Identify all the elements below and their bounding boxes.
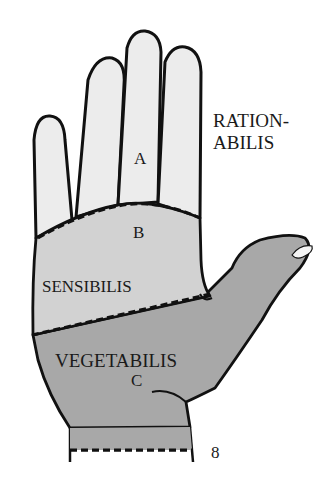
index-finger	[158, 47, 201, 218]
middle-finger	[118, 31, 161, 205]
wrist-fill	[70, 427, 192, 450]
zone-letter-b: B	[133, 223, 144, 242]
hand-diagram: RATION- ABILIS A B SENSIBILIS VEGETABILI…	[0, 0, 336, 483]
ring-finger	[76, 58, 124, 217]
sensibilis-label: SENSIBILIS	[42, 277, 132, 296]
rationabilis-label-line1: RATION-	[213, 110, 289, 131]
vegetabilis-label: VEGETABILIS	[55, 350, 177, 371]
page-number: 8	[211, 443, 220, 462]
zone-letter-c: C	[131, 371, 142, 390]
little-finger	[34, 116, 72, 238]
zone-letter-a: A	[134, 149, 147, 168]
rationabilis-label-line2: ABILIS	[213, 132, 274, 153]
